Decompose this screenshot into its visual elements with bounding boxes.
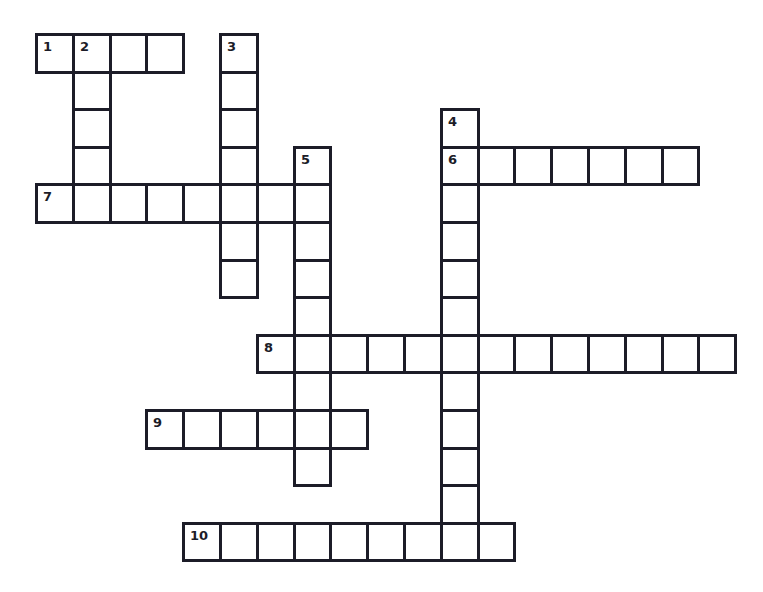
crossword-cell[interactable] bbox=[293, 183, 332, 224]
letter-input[interactable] bbox=[296, 149, 329, 183]
crossword-cell[interactable] bbox=[293, 259, 332, 299]
letter-input[interactable] bbox=[443, 299, 477, 334]
crossword-cell[interactable] bbox=[661, 146, 700, 186]
crossword-cell[interactable] bbox=[697, 334, 737, 374]
letter-input[interactable] bbox=[590, 337, 624, 371]
letter-input[interactable] bbox=[259, 337, 293, 371]
letter-input[interactable] bbox=[296, 186, 329, 221]
letter-input[interactable] bbox=[443, 186, 477, 221]
letter-input[interactable] bbox=[443, 262, 477, 296]
letter-input[interactable] bbox=[38, 36, 72, 71]
letter-input[interactable] bbox=[332, 337, 366, 371]
letter-input[interactable] bbox=[480, 149, 513, 183]
letter-input[interactable] bbox=[553, 149, 587, 183]
letter-input[interactable] bbox=[222, 74, 256, 108]
crossword-cell[interactable]: 10 bbox=[182, 522, 222, 562]
letter-input[interactable] bbox=[185, 525, 219, 559]
letter-input[interactable] bbox=[75, 149, 109, 183]
letter-input[interactable] bbox=[112, 186, 145, 221]
crossword-cell[interactable] bbox=[403, 334, 443, 374]
letter-input[interactable] bbox=[590, 149, 624, 183]
crossword-cell[interactable]: 2 bbox=[72, 33, 112, 74]
letter-input[interactable] bbox=[369, 525, 403, 559]
crossword-cell[interactable] bbox=[440, 409, 480, 450]
crossword-cell[interactable] bbox=[182, 409, 222, 450]
crossword-cell[interactable] bbox=[513, 334, 553, 374]
crossword-cell[interactable]: 3 bbox=[219, 33, 259, 74]
crossword-cell[interactable] bbox=[293, 371, 332, 412]
letter-input[interactable] bbox=[148, 36, 182, 71]
letter-input[interactable] bbox=[553, 337, 587, 371]
crossword-cell[interactable] bbox=[440, 221, 480, 262]
letter-input[interactable] bbox=[443, 374, 477, 409]
letter-input[interactable] bbox=[516, 149, 550, 183]
letter-input[interactable] bbox=[296, 525, 329, 559]
letter-input[interactable] bbox=[443, 525, 477, 559]
letter-input[interactable] bbox=[627, 149, 661, 183]
crossword-cell[interactable] bbox=[329, 522, 369, 562]
crossword-cell[interactable] bbox=[366, 334, 406, 374]
crossword-cell[interactable] bbox=[587, 334, 627, 374]
letter-input[interactable] bbox=[443, 450, 477, 484]
letter-input[interactable] bbox=[222, 412, 256, 447]
crossword-cell[interactable] bbox=[293, 522, 332, 562]
crossword-cell[interactable] bbox=[366, 522, 406, 562]
crossword-cell[interactable] bbox=[145, 33, 185, 74]
letter-input[interactable] bbox=[296, 262, 329, 296]
crossword-cell[interactable] bbox=[477, 146, 516, 186]
letter-input[interactable] bbox=[443, 487, 477, 522]
letter-input[interactable] bbox=[480, 525, 513, 559]
crossword-cell[interactable] bbox=[219, 522, 259, 562]
letter-input[interactable] bbox=[222, 224, 256, 259]
crossword-cell[interactable]: 4 bbox=[440, 108, 480, 149]
letter-input[interactable] bbox=[296, 450, 329, 484]
crossword-cell[interactable] bbox=[550, 334, 590, 374]
crossword-cell[interactable] bbox=[440, 296, 480, 337]
letter-input[interactable] bbox=[443, 111, 477, 146]
crossword-cell[interactable] bbox=[477, 522, 516, 562]
crossword-cell[interactable] bbox=[109, 183, 148, 224]
letter-input[interactable] bbox=[222, 36, 256, 71]
letter-input[interactable] bbox=[296, 224, 329, 259]
letter-input[interactable] bbox=[627, 337, 661, 371]
crossword-cell[interactable] bbox=[219, 221, 259, 262]
letter-input[interactable] bbox=[369, 337, 403, 371]
crossword-cell[interactable] bbox=[219, 259, 259, 299]
letter-input[interactable] bbox=[443, 412, 477, 447]
letter-input[interactable] bbox=[406, 525, 440, 559]
letter-input[interactable] bbox=[443, 224, 477, 259]
crossword-cell[interactable] bbox=[329, 409, 369, 450]
crossword-cell[interactable] bbox=[661, 334, 700, 374]
crossword-cell[interactable]: 6 bbox=[440, 146, 480, 186]
crossword-cell[interactable] bbox=[440, 522, 480, 562]
crossword-cell[interactable] bbox=[293, 409, 332, 450]
crossword-cell[interactable] bbox=[182, 183, 222, 224]
crossword-cell[interactable] bbox=[72, 146, 112, 186]
letter-input[interactable] bbox=[148, 412, 182, 447]
letter-input[interactable] bbox=[75, 36, 109, 71]
crossword-cell[interactable] bbox=[109, 33, 148, 74]
crossword-cell[interactable]: 8 bbox=[256, 334, 296, 374]
crossword-cell[interactable] bbox=[219, 71, 259, 111]
letter-input[interactable] bbox=[222, 525, 256, 559]
letter-input[interactable] bbox=[664, 149, 697, 183]
crossword-cell[interactable] bbox=[293, 447, 332, 487]
letter-input[interactable] bbox=[222, 149, 256, 183]
letter-input[interactable] bbox=[332, 412, 366, 447]
crossword-cell[interactable] bbox=[293, 221, 332, 262]
crossword-cell[interactable] bbox=[550, 146, 590, 186]
letter-input[interactable] bbox=[296, 374, 329, 409]
letter-input[interactable] bbox=[296, 412, 329, 447]
letter-input[interactable] bbox=[259, 412, 293, 447]
letter-input[interactable] bbox=[75, 74, 109, 108]
letter-input[interactable] bbox=[75, 111, 109, 146]
crossword-cell[interactable] bbox=[440, 371, 480, 412]
crossword-cell[interactable] bbox=[256, 409, 296, 450]
crossword-cell[interactable] bbox=[72, 71, 112, 111]
crossword-cell[interactable] bbox=[440, 484, 480, 525]
crossword-cell[interactable] bbox=[219, 146, 259, 186]
crossword-cell[interactable]: 7 bbox=[35, 183, 75, 224]
letter-input[interactable] bbox=[222, 111, 256, 146]
letter-input[interactable] bbox=[259, 525, 293, 559]
crossword-cell[interactable] bbox=[513, 146, 553, 186]
